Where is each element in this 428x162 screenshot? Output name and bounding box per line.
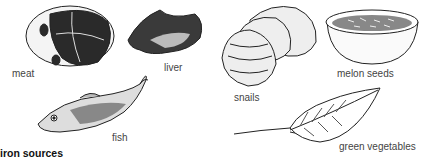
label-green-vegetables: green vegetables	[339, 141, 416, 152]
snails-illustration	[222, 7, 316, 87]
label-liver: liver	[164, 62, 182, 73]
iron-sources-figure: meat liver snails melon seeds fish green…	[0, 0, 428, 162]
label-snails: snails	[234, 92, 260, 103]
liver-illustration	[128, 10, 202, 54]
illustrations	[0, 0, 428, 162]
label-fish: fish	[112, 132, 128, 143]
melon-seeds-illustration	[326, 10, 418, 64]
fish-illustration	[38, 76, 148, 132]
label-meat: meat	[12, 68, 34, 79]
meat-illustration	[26, 6, 114, 66]
figure-title: iron sources	[0, 147, 63, 159]
label-melon-seeds: melon seeds	[337, 68, 394, 79]
